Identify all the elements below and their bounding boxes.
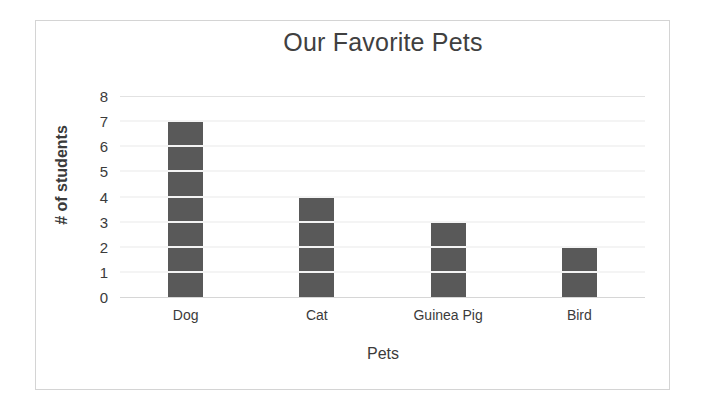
x-tick-label-dog: Dog [173,307,199,323]
x-tick-label-guinea-pig: Guinea Pig [413,307,482,323]
plot-area: 012345678 DogCatGuinea PigBird [120,96,645,297]
y-axis-title: # of students [53,95,71,255]
y-tick-label-3: 3 [100,213,108,230]
gridline-8 [120,96,645,97]
y-tick-label-1: 1 [100,263,108,280]
x-tick-label-bird: Bird [567,307,592,323]
y-tick-label-8: 8 [100,88,108,105]
gridline-0 [120,297,645,298]
y-tick-label-6: 6 [100,138,108,155]
y-tick-label-4: 4 [100,188,108,205]
chart-title: Our Favorite Pets [120,28,646,57]
bar-chart-figure: Our Favorite Pets # of students 01234567… [0,0,705,411]
bar-guinea-pig[interactable] [431,222,466,297]
y-tick-label-5: 5 [100,163,108,180]
y-tick-label-0: 0 [100,289,108,306]
y-tick-label-7: 7 [100,113,108,130]
x-axis-title: Pets [120,345,646,363]
x-tick-label-cat: Cat [306,307,328,323]
bar-dog[interactable] [168,121,203,297]
y-tick-label-2: 2 [100,238,108,255]
bar-bird[interactable] [562,247,597,297]
bar-cat[interactable] [299,197,334,298]
